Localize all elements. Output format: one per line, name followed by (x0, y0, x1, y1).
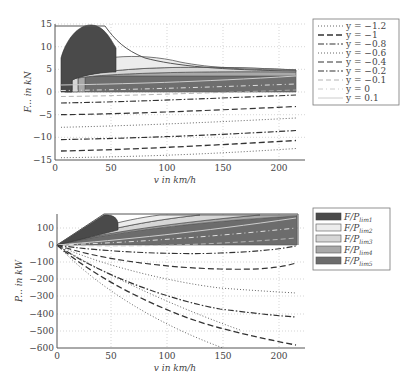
top-y-label: F... in kN (23, 70, 33, 113)
top-line-y-1 (61, 141, 296, 152)
top-line-y-0.8 (61, 131, 296, 140)
legend-swatch-lim3 (316, 235, 341, 242)
top-legend: y = −1.2 y = −1 y = −0.8 y = −0.6 y = −0… (313, 19, 399, 105)
top-line-y-0.4 (61, 107, 296, 115)
bottom-ytick: 0 (48, 240, 54, 250)
bottom-xtick: 0 (54, 351, 60, 361)
bottom-ytick: 100 (37, 223, 54, 233)
top-ytick: −10 (33, 132, 52, 142)
top-xtick: 150 (214, 163, 231, 173)
legend-swatch-lim5 (316, 257, 341, 264)
legend-entry: y = 0.1 (345, 93, 379, 103)
bottom-line-y-0.2 (57, 245, 296, 254)
bottom-xtick: 200 (270, 351, 287, 361)
top-ytick: 15 (41, 19, 53, 29)
bottom-x-label: v in km/h (154, 363, 196, 373)
bottom-line-y-1.2 (57, 245, 223, 348)
bottom-ytick: −200 (29, 274, 54, 284)
bottom-line-y-1 (57, 245, 296, 345)
legend-swatch-lim2 (316, 224, 341, 231)
top-ytick: −15 (33, 155, 52, 165)
bottom-xtick: 100 (158, 351, 175, 361)
top-ytick: 0 (46, 87, 52, 97)
top-xtick: 0 (52, 163, 58, 173)
top-xtick: 100 (158, 163, 175, 173)
bottom-line-y-0.8 (57, 245, 296, 317)
bottom-xtick: 150 (214, 351, 231, 361)
top-ytick: −5 (39, 110, 53, 120)
top-plot: 15 10 5 0 −5 −10 −15 0 50 100 150 200 v … (23, 19, 399, 185)
top-xtick: 50 (105, 163, 117, 173)
figure: 15 10 5 0 −5 −10 −15 0 50 100 150 200 v … (0, 0, 401, 391)
bottom-series (57, 245, 296, 348)
legend-swatch-lim1 (316, 213, 341, 220)
legend-swatch-lim4 (316, 246, 341, 253)
bottom-ytick: −300 (29, 291, 54, 301)
bottom-line-y-0.6b (57, 245, 240, 330)
top-xtick: 200 (270, 163, 287, 173)
bottom-ytick: −100 (29, 257, 54, 267)
bottom-ytick: −600 (29, 343, 54, 353)
bottom-line-y-0.6 (57, 245, 296, 293)
top-line-y-0.6 (61, 118, 296, 127)
bottom-xtick: 50 (105, 351, 117, 361)
top-line-y-1.2 (61, 149, 296, 158)
bottom-ytick: −400 (29, 309, 54, 319)
top-ytick: 10 (41, 42, 53, 52)
bottom-plot: 100 0 −100 −200 −300 −400 −500 −600 0 50… (14, 208, 390, 373)
top-x-label: v in km/h (154, 175, 196, 185)
bottom-ytick: −500 (29, 326, 54, 336)
bottom-y-label: P... in kW (14, 259, 24, 303)
top-ytick: 5 (46, 64, 52, 74)
bottom-legend: F/Plim1 F/Plim2 F/Plim3 F/Plim4 F/Plim5 (313, 208, 390, 270)
bottom-line-y-0.4 (57, 245, 296, 269)
